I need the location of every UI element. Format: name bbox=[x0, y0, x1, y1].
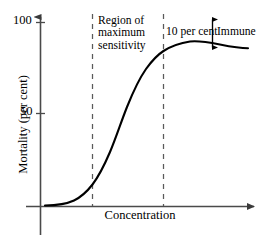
immune-label: Immune bbox=[217, 26, 256, 38]
ten-per-cent-label: 10 per cent bbox=[166, 26, 218, 38]
x-axis-title: Concentration bbox=[78, 209, 202, 222]
dose-response-figure: 100 50 Mortality (per cent) Concentratio… bbox=[0, 0, 265, 245]
y-axis-title: Mortality (per cent) bbox=[17, 54, 30, 194]
region-of-maximum-sensitivity-label: Region of maximum sensitivity bbox=[98, 15, 162, 52]
y-tick-label-100: 100 bbox=[13, 14, 32, 27]
mortality-curve bbox=[45, 41, 248, 205]
